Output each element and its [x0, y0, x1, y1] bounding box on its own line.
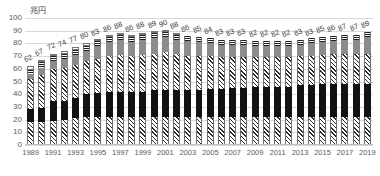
segment-segment-3-hatch-upper [128, 56, 135, 92]
bar-2005[interactable] [207, 18, 214, 145]
segment-segment-6-white [106, 35, 113, 37]
segment-segment-5-horizontal-stripe [297, 40, 304, 45]
segment-segment-2-black [117, 92, 124, 117]
bar-2018[interactable] [353, 18, 360, 145]
bar-stack [319, 37, 326, 145]
segment-segment-2-black [297, 85, 304, 117]
bar-stack [240, 40, 247, 145]
segment-segment-3-hatch-upper [196, 56, 203, 90]
bar-2017[interactable] [341, 18, 348, 145]
segment-segment-2-black [218, 89, 225, 117]
segment-segment-3-hatch-upper [341, 54, 348, 84]
segment-segment-4-gray [72, 55, 79, 65]
segment-segment-3-hatch-upper [229, 57, 236, 87]
segment-segment-3-hatch-upper [50, 69, 57, 101]
segment-segment-5-horizontal-stripe [50, 56, 57, 61]
y-tick-10: 10 [13, 128, 22, 136]
segment-segment-3-hatch-upper [94, 59, 101, 93]
segment-segment-6-white [83, 43, 90, 46]
segment-segment-1-hatch-lower [274, 117, 281, 145]
bar-2019[interactable] [364, 18, 371, 145]
plot-area: 6267727477808386888688899088868584838383… [25, 18, 373, 145]
segment-segment-3-hatch-upper [353, 54, 360, 84]
segment-segment-4-gray [151, 38, 158, 53]
y-tick-90: 90 [13, 27, 22, 35]
bar-stack [173, 33, 180, 145]
segment-segment-5-horizontal-stripe [196, 37, 203, 42]
bar-2016[interactable] [330, 18, 337, 145]
bar-stack [330, 36, 337, 145]
segment-segment-3-hatch-upper [173, 54, 180, 91]
bar-2015[interactable] [319, 18, 326, 145]
segment-segment-5-horizontal-stripe [94, 41, 101, 46]
segment-segment-3-hatch-upper [61, 68, 68, 101]
segment-segment-3-hatch-upper [319, 55, 326, 84]
bar-stack [207, 38, 214, 145]
bar-1990[interactable] [38, 18, 45, 145]
segment-segment-5-horizontal-stripe [229, 40, 236, 45]
segment-segment-3-hatch-upper [364, 54, 371, 84]
bar-1998[interactable] [128, 18, 135, 145]
segment-segment-6-white [151, 31, 158, 33]
segment-segment-5-horizontal-stripe [117, 35, 124, 40]
bar-stack [229, 40, 236, 145]
gridline-0 [25, 145, 373, 146]
bar-2008[interactable] [240, 18, 247, 145]
segment-segment-5-horizontal-stripe [218, 40, 225, 45]
segment-segment-2-black [106, 92, 113, 117]
bar-1989[interactable] [27, 18, 34, 145]
bar-stack [341, 35, 348, 145]
bar-1991[interactable] [50, 18, 57, 145]
segment-segment-5-horizontal-stripe [72, 50, 79, 55]
segment-segment-1-hatch-lower [319, 117, 326, 145]
segment-segment-4-gray [27, 74, 34, 79]
segment-segment-4-gray [263, 46, 270, 57]
y-tick-80: 80 [13, 39, 22, 47]
y-tick-60: 60 [13, 65, 22, 73]
bar-stack [151, 32, 158, 145]
segment-segment-2-black [196, 90, 203, 117]
bar-2004[interactable] [196, 18, 203, 145]
segment-segment-5-horizontal-stripe [285, 41, 292, 46]
bar-2002[interactable] [173, 18, 180, 145]
segment-segment-4-gray [184, 41, 191, 56]
segment-segment-5-horizontal-stripe [128, 37, 135, 42]
bar-1997[interactable] [117, 18, 124, 145]
bar-2001[interactable] [162, 18, 169, 145]
segment-segment-1-hatch-lower [162, 117, 169, 145]
bar-1999[interactable] [139, 18, 146, 145]
segment-segment-5-horizontal-stripe [61, 54, 68, 59]
segment-segment-3-hatch-upper [162, 52, 169, 90]
bar-stack [184, 36, 191, 145]
y-tick-70: 70 [13, 52, 22, 60]
segment-segment-2-black [61, 101, 68, 120]
bar-1995[interactable] [94, 18, 101, 145]
segment-segment-1-hatch-lower [128, 117, 135, 145]
segment-segment-5-horizontal-stripe [83, 46, 90, 51]
segment-segment-1-hatch-lower [308, 117, 315, 145]
bar-stack [285, 41, 292, 145]
x-axis-line [25, 144, 373, 145]
bar-stack [72, 47, 79, 145]
segment-segment-3-hatch-upper [252, 57, 259, 86]
bar-stack [263, 41, 270, 145]
y-tick-40: 40 [13, 90, 22, 98]
y-tick-20: 20 [13, 116, 22, 124]
bar-2003[interactable] [184, 18, 191, 145]
bar-stack [218, 40, 225, 145]
segment-segment-5-horizontal-stripe [341, 35, 348, 40]
segment-segment-4-gray [240, 45, 247, 58]
bar-1996[interactable] [106, 18, 113, 145]
bar-series-group: 6267727477808386888688899088868584838383… [25, 18, 373, 145]
segment-segment-3-hatch-upper [38, 75, 45, 108]
segment-segment-4-gray [229, 45, 236, 58]
segment-segment-1-hatch-lower [83, 117, 90, 145]
bar-stack [61, 51, 68, 145]
bar-2000[interactable] [151, 18, 158, 145]
segment-segment-3-hatch-upper [184, 56, 191, 90]
x-axis-tick-labels: 1989199119931995199719992001200320052007… [25, 148, 373, 162]
segment-segment-6-white [173, 33, 180, 35]
y-tick-100: 100 [9, 14, 22, 22]
segment-segment-2-black [207, 89, 214, 117]
y-tick-30: 30 [13, 103, 22, 111]
